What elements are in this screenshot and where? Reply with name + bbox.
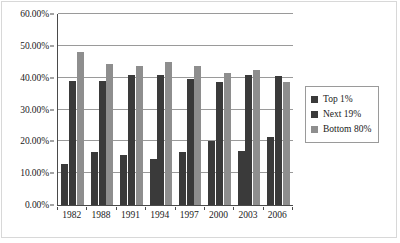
legend-swatch-icon	[311, 126, 318, 133]
y-axis-tick-mark	[50, 205, 54, 206]
bar-2006-bottom-80	[283, 82, 290, 205]
x-axis-tick-mark	[233, 207, 234, 210]
x-axis: 19821988199119941997200020032006	[57, 207, 293, 227]
y-axis-tick-mark	[50, 77, 54, 78]
y-axis-tick-mark	[50, 173, 54, 174]
y-axis-tick-mark	[50, 141, 54, 142]
gridline-50.00%	[58, 45, 293, 46]
bar-1991-bottom-80	[136, 66, 143, 205]
bar-1994-top-1	[150, 159, 157, 205]
x-axis-tick-mark	[175, 207, 176, 210]
bar-1997-bottom-80	[194, 66, 201, 205]
y-axis-tick-label: 10.00%	[20, 168, 49, 178]
x-axis-tick-label-1988: 1988	[92, 210, 111, 220]
bar-2006-next-19	[275, 76, 282, 205]
y-axis-tick-label: 60.00%	[20, 9, 49, 19]
y-axis-tick-mark	[50, 14, 54, 15]
legend-label: Top 1%	[323, 95, 353, 105]
x-axis-tick-label-1982: 1982	[62, 210, 81, 220]
y-axis-tick-mark	[50, 45, 54, 46]
wealth-distribution-bar-chart: 0.00%10.00%20.00%30.00%40.00%50.00%60.00…	[0, 0, 400, 243]
y-axis: 0.00%10.00%20.00%30.00%40.00%50.00%60.00…	[0, 0, 57, 207]
bar-1991-top-1	[120, 155, 127, 205]
x-axis-tick-mark	[145, 207, 146, 210]
legend-swatch-icon	[311, 111, 318, 118]
bar-1994-next-19	[157, 75, 164, 205]
gridline-60.00%	[58, 13, 293, 14]
y-axis-tick-mark	[50, 109, 54, 110]
bar-2003-bottom-80	[253, 70, 260, 205]
x-axis-tick-label-1997: 1997	[180, 210, 199, 220]
bar-1994-bottom-80	[165, 62, 172, 205]
bar-1982-bottom-80	[77, 52, 84, 205]
bar-2000-top-1	[208, 141, 215, 205]
x-axis-tick-mark	[263, 207, 264, 210]
y-axis-tick-label: 50.00%	[20, 41, 49, 51]
x-axis-tick-label-2003: 2003	[238, 210, 257, 220]
x-axis-tick-label-2006: 2006	[268, 210, 287, 220]
bar-1991-next-19	[128, 75, 135, 205]
x-axis-tick-mark	[57, 207, 58, 210]
y-axis-tick-label: 30.00%	[20, 105, 49, 115]
bar-2006-top-1	[267, 137, 274, 205]
x-axis-tick-mark	[204, 207, 205, 210]
bar-1997-next-19	[187, 79, 194, 205]
x-axis-tick-mark	[292, 207, 293, 210]
x-axis-tick-mark	[86, 207, 87, 210]
y-axis-tick-label: 0.00%	[25, 200, 49, 210]
legend-item-next-19[interactable]: Next 19%	[311, 107, 371, 122]
bar-1988-next-19	[99, 81, 106, 205]
bar-1982-top-1	[61, 164, 68, 205]
legend-swatch-icon	[311, 96, 318, 103]
bar-2003-top-1	[238, 151, 245, 205]
bar-2003-next-19	[245, 75, 252, 205]
bar-1988-top-1	[91, 152, 98, 205]
x-axis-tick-label-1991: 1991	[121, 210, 140, 220]
chart-legend: Top 1%Next 19%Bottom 80%	[305, 86, 379, 143]
bar-2000-bottom-80	[224, 73, 231, 205]
bar-2000-next-19	[216, 82, 223, 206]
legend-label: Next 19%	[323, 110, 361, 120]
bar-1997-top-1	[179, 152, 186, 205]
legend-item-bottom-80[interactable]: Bottom 80%	[311, 122, 371, 137]
bar-1982-next-19	[69, 81, 76, 205]
plot-area	[57, 14, 293, 206]
x-axis-tick-mark	[116, 207, 117, 210]
x-axis-tick-label-2000: 2000	[209, 210, 228, 220]
y-axis-tick-label: 20.00%	[20, 136, 49, 146]
bar-1988-bottom-80	[106, 64, 113, 205]
y-axis-tick-label: 40.00%	[20, 73, 49, 83]
legend-item-top-1[interactable]: Top 1%	[311, 92, 371, 107]
legend-label: Bottom 80%	[323, 125, 371, 135]
x-axis-tick-label-1994: 1994	[150, 210, 169, 220]
